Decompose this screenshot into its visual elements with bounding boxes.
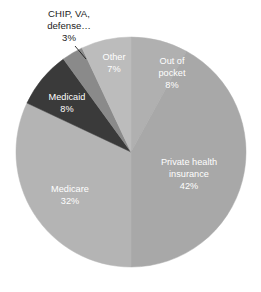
slice-label-chip-va-defense: CHIP, VA, defense… 3% (47, 8, 91, 43)
private-health-insurance-label-line2: insurance (169, 169, 209, 179)
chip-va-defense-value: 3% (62, 32, 76, 43)
chip-va-defense-label-line1: CHIP, VA, (48, 8, 90, 19)
medicaid-value: 8% (60, 104, 73, 114)
pie-chart-svg: Out of pocket 8% Private health insuranc… (0, 0, 261, 292)
out-of-pocket-value: 8% (165, 80, 178, 90)
private-health-insurance-label-line1: Private health (161, 157, 217, 167)
other-label: Other (103, 52, 126, 62)
private-health-insurance-value: 42% (180, 181, 198, 191)
medicare-label: Medicare (51, 184, 89, 194)
medicaid-label: Medicaid (49, 92, 86, 102)
chip-va-defense-label-line2: defense… (47, 20, 91, 31)
out-of-pocket-label-line1: Out of (159, 56, 184, 66)
out-of-pocket-label-line2: pocket (158, 68, 186, 78)
pie-chart-figure: Out of pocket 8% Private health insuranc… (0, 0, 261, 292)
medicare-value: 32% (61, 196, 79, 206)
pie-slice-group (16, 37, 246, 267)
other-value: 7% (107, 64, 120, 74)
